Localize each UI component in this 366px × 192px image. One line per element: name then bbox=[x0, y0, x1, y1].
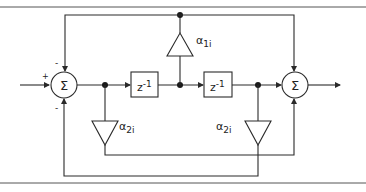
line-alpha2-right-to-sum1 bbox=[64, 99, 258, 176]
summer-input: Σ bbox=[51, 72, 77, 98]
gain-alpha-2i-right-triangle bbox=[245, 121, 271, 145]
gain-alpha-2i-left-triangle bbox=[92, 121, 118, 145]
label-alpha-2i-right: α2i bbox=[216, 120, 232, 135]
sigma-symbol: Σ bbox=[291, 78, 299, 93]
sign-minus-bottom: - bbox=[55, 103, 58, 113]
gain-alpha-1i-triangle bbox=[167, 33, 193, 56]
filter-block-diagram: Σ + - - z-1 z-1 Σ α1i α2i α2i bbox=[0, 0, 366, 192]
summer-output: Σ bbox=[282, 72, 308, 98]
delay-block-2: z-1 bbox=[204, 72, 232, 97]
svg-text:z-1: z-1 bbox=[210, 79, 225, 94]
sign-minus-top: - bbox=[55, 58, 58, 68]
feedback-top-to-sum1 bbox=[65, 15, 180, 71]
delay-block-1: z-1 bbox=[131, 72, 158, 97]
label-alpha-1i: α1i bbox=[196, 34, 212, 49]
sign-plus: + bbox=[42, 72, 49, 81]
sigma-symbol: Σ bbox=[60, 78, 68, 93]
svg-text:z-1: z-1 bbox=[137, 79, 152, 94]
label-alpha-2i-left: α2i bbox=[119, 120, 135, 135]
